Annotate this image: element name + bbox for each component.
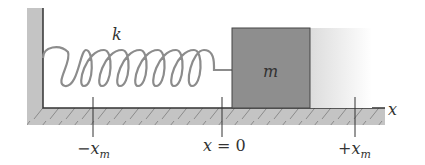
ghost-block-region [310,28,372,108]
wall [27,8,43,125]
floor [27,108,385,125]
spring [43,47,232,86]
oscillator-diagram: k m x −xm x = 0 +xm [0,0,425,165]
tick-label-neg-xm: −xm [77,139,110,161]
tick-label-zero: x = 0 [203,136,246,155]
mass-label: m [263,62,278,81]
axis-label: x [388,100,397,119]
spring-label: k [112,25,122,44]
tick-label-pos-xm: +xm [338,139,371,161]
